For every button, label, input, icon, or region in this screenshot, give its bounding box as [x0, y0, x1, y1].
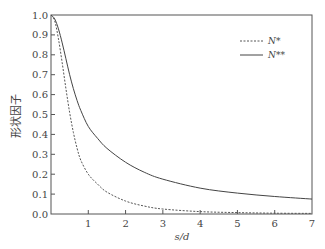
x-tick-label: 6 [272, 218, 278, 229]
legend-label-n-star: N* [267, 36, 281, 46]
y-tick-label: 0.3 [32, 149, 48, 160]
x-tick-label: 2 [122, 218, 128, 229]
y-tick-label: 0.2 [32, 169, 48, 180]
x-axis-label: s/d [175, 231, 190, 242]
y-axis-label: 形状因子 [9, 94, 23, 138]
y-tick-label: 0.8 [32, 49, 48, 60]
legend: N* N** [240, 36, 285, 60]
chart: 0.00.10.20.30.40.50.60.70.80.91.0 123456… [0, 0, 325, 249]
y-tick-label: 0.4 [32, 129, 48, 140]
y-tick-label: 0.1 [32, 189, 48, 200]
y-tick-label: 0.6 [32, 89, 48, 100]
x-tick-label: 5 [234, 218, 240, 229]
x-tick-label: 1 [85, 218, 91, 229]
legend-label-n-double-star: N** [267, 50, 285, 60]
x-tick-label: 7 [309, 218, 315, 229]
y-axis: 0.00.10.20.30.40.50.60.70.80.91.0 [32, 10, 55, 220]
y-tick-label: 0.7 [32, 69, 48, 80]
y-tick-label: 0.5 [32, 109, 48, 120]
x-tick-label: 4 [197, 218, 203, 229]
y-tick-label: 1.0 [32, 10, 48, 21]
x-tick-label: 3 [160, 218, 166, 229]
y-tick-label: 0.9 [32, 29, 48, 40]
y-tick-label: 0.0 [32, 209, 48, 220]
